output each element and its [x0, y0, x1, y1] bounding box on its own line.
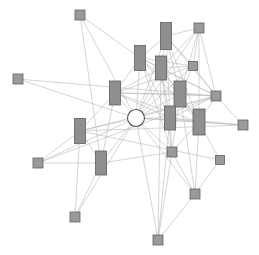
graph-edge — [158, 194, 195, 240]
graph-node-square[interactable] — [33, 158, 43, 168]
graph-node-hub[interactable] — [128, 110, 145, 127]
graph-edge — [170, 118, 243, 125]
edge-layer — [18, 15, 243, 240]
graph-node-rect[interactable] — [75, 119, 86, 144]
graph-node-rect[interactable] — [193, 109, 205, 135]
network-graph-canvas — [0, 0, 259, 255]
graph-node-square[interactable] — [238, 120, 248, 130]
graph-node-rect[interactable] — [174, 81, 186, 107]
graph-edge — [136, 118, 158, 240]
graph-node-square[interactable] — [70, 212, 80, 222]
graph-node-square[interactable] — [167, 147, 177, 157]
graph-node-square[interactable] — [189, 62, 198, 71]
graph-edge — [136, 118, 243, 125]
graph-node-rect[interactable] — [161, 23, 172, 50]
graph-edge — [80, 15, 140, 58]
graph-node-square[interactable] — [216, 156, 225, 165]
graph-node-square[interactable] — [153, 235, 163, 245]
graph-edge — [38, 131, 80, 163]
graph-edge — [38, 118, 136, 163]
graph-node-square[interactable] — [194, 23, 204, 33]
node-layer — [13, 10, 248, 245]
graph-node-rect[interactable] — [135, 46, 146, 71]
graph-edge — [158, 152, 172, 240]
network-graph-svg — [0, 0, 259, 255]
graph-edge — [80, 125, 243, 131]
graph-node-rect[interactable] — [156, 56, 167, 80]
graph-node-square[interactable] — [190, 189, 200, 199]
graph-node-rect[interactable] — [96, 151, 107, 175]
graph-node-rect[interactable] — [165, 106, 176, 130]
graph-node-square[interactable] — [13, 74, 23, 84]
graph-node-square[interactable] — [75, 10, 85, 20]
graph-node-square[interactable] — [211, 91, 221, 101]
graph-node-rect[interactable] — [110, 81, 121, 105]
